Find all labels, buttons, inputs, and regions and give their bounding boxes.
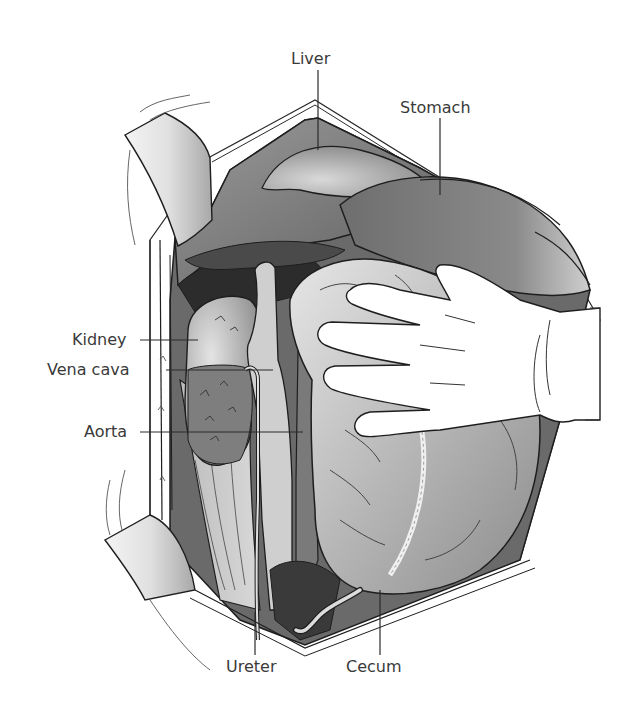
label-ureter: Ureter	[226, 659, 276, 675]
abdominal-cavity-drawing	[0, 0, 631, 705]
label-stomach: Stomach	[400, 100, 471, 116]
anatomy-illustration: Liver Stomach Kidney Vena cava Aorta Ure…	[0, 0, 631, 705]
label-aorta: Aorta	[84, 424, 127, 440]
label-kidney: Kidney	[72, 332, 127, 348]
label-cecum: Cecum	[346, 659, 402, 675]
label-liver: Liver	[291, 51, 330, 67]
label-vena-cava: Vena cava	[47, 362, 129, 378]
